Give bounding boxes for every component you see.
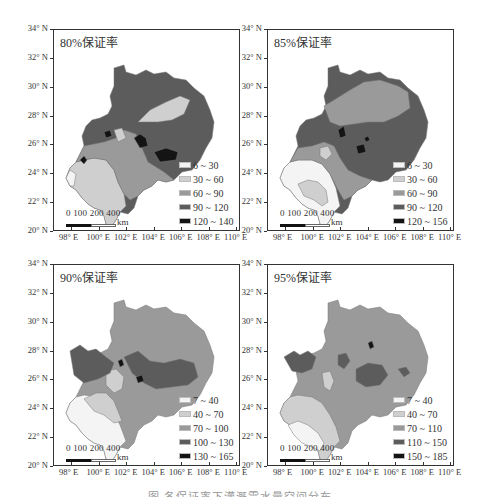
y-tick-label: 20° N <box>20 225 48 235</box>
y-tick-label: 32° N <box>20 52 48 62</box>
x-tick-label: 108° E <box>411 467 434 477</box>
legend-label: 70 ~ 110 <box>407 423 442 434</box>
scale-segment-light <box>91 224 116 227</box>
legend-swatch-icon <box>393 439 405 445</box>
x-tick-label: 108° E <box>197 467 220 477</box>
y-tick-label: 28° N <box>234 345 262 355</box>
x-tick-mark <box>450 227 451 230</box>
legend-item: 90 ~ 120 <box>179 200 233 214</box>
x-tick-label: 104° E <box>142 232 165 242</box>
legend-item: 90 ~ 120 <box>393 200 447 214</box>
y-tick-label: 30° N <box>20 316 48 326</box>
y-tick-label: 30° N <box>20 81 48 91</box>
legend-swatch-icon <box>179 176 191 182</box>
map-legend: 6 ~ 3030 ~ 6060 ~ 9090 ~ 120120 ~ 140 <box>179 158 233 228</box>
x-tick-label: 102° E <box>114 232 137 242</box>
legend-item: 70 ~ 100 <box>179 421 233 435</box>
y-tick-label: 20° N <box>234 460 262 470</box>
y-tick-label: 24° N <box>20 402 48 412</box>
scale-bar: 0 100 200 400km <box>66 443 129 462</box>
legend-label: 7 ~ 40 <box>407 395 432 406</box>
legend-label: 30 ~ 60 <box>407 174 437 185</box>
x-tick-mark <box>99 227 100 230</box>
legend-swatch-icon <box>393 411 405 417</box>
x-tick-mark <box>71 227 72 230</box>
scale-bar: 0 100 200 400km <box>66 208 129 227</box>
y-tick-label: 34° N <box>20 258 48 268</box>
x-tick-mark <box>154 227 155 230</box>
x-tick-label: 104° E <box>142 467 165 477</box>
y-tick-label: 34° N <box>20 23 48 33</box>
scale-bar: 0 100 200 400km <box>280 443 343 462</box>
y-tick-label: 30° N <box>234 81 262 91</box>
y-tick-label: 34° N <box>234 258 262 268</box>
legend-label: 90 ~ 120 <box>407 202 442 213</box>
panel-title: 90%保证率 <box>60 268 118 286</box>
legend-swatch-icon <box>179 162 191 168</box>
scale-segment-dark <box>280 224 305 227</box>
x-tick-label: 102° E <box>328 467 351 477</box>
legend-label: 6 ~ 30 <box>407 160 432 171</box>
legend-item: 7 ~ 40 <box>179 393 233 407</box>
y-tick-label: 26° N <box>234 138 262 148</box>
scale-segment-light <box>305 224 330 227</box>
scale-segment-light <box>305 459 330 462</box>
legend-item: 100 ~ 130 <box>179 435 233 449</box>
panel-title: 95%保证率 <box>274 268 332 286</box>
legend-item: 6 ~ 30 <box>179 158 233 172</box>
y-tick-label: 30° N <box>234 316 262 326</box>
y-tick-label: 28° N <box>234 110 262 120</box>
legend-swatch-icon <box>179 453 191 459</box>
x-tick-mark <box>285 462 286 465</box>
legend-swatch-icon <box>179 190 191 196</box>
x-tick-label: 98° E <box>59 467 78 477</box>
legend-swatch-icon <box>393 204 405 210</box>
y-tick-label: 28° N <box>20 345 48 355</box>
legend-label: 150 ~ 185 <box>407 451 447 462</box>
x-tick-mark <box>313 462 314 465</box>
map-legend: 7 ~ 4040 ~ 7070 ~ 110110 ~ 150150 ~ 185 <box>393 393 447 463</box>
x-tick-label: 98° E <box>273 232 292 242</box>
legend-item: 150 ~ 185 <box>393 449 447 463</box>
x-tick-label: 102° E <box>114 467 137 477</box>
x-tick-label: 106° E <box>169 232 192 242</box>
scale-segment-light <box>91 459 116 462</box>
x-tick-label: 100° E <box>87 232 110 242</box>
legend-item: 120 ~ 156 <box>393 214 447 228</box>
map-legend: 7 ~ 4040 ~ 7070 ~ 100100 ~ 130130 ~ 165 <box>179 393 233 463</box>
legend-item: 60 ~ 90 <box>179 186 233 200</box>
legend-label: 120 ~ 156 <box>407 216 447 227</box>
y-tick-label: 22° N <box>234 196 262 206</box>
legend-swatch-icon <box>179 397 191 403</box>
legend-swatch-icon <box>393 425 405 431</box>
x-tick-mark <box>285 227 286 230</box>
map-frame: 95%保证率7 ~ 4040 ~ 7070 ~ 110110 ~ 150150 … <box>267 264 454 466</box>
map-frame: 90%保证率7 ~ 4040 ~ 7070 ~ 100100 ~ 130130 … <box>53 264 240 466</box>
y-tick-label: 22° N <box>20 196 48 206</box>
y-tick-label: 22° N <box>234 431 262 441</box>
legend-label: 40 ~ 70 <box>407 409 437 420</box>
map-frame: 85%保证率6 ~ 3030 ~ 6060 ~ 9090 ~ 120120 ~ … <box>267 29 454 231</box>
x-tick-label: 102° E <box>328 232 351 242</box>
legend-label: 90 ~ 120 <box>193 202 228 213</box>
y-tick-label: 20° N <box>20 460 48 470</box>
x-tick-label: 106° E <box>169 467 192 477</box>
y-tick-label: 24° N <box>234 167 262 177</box>
x-tick-label: 98° E <box>273 467 292 477</box>
legend-label: 40 ~ 70 <box>193 409 223 420</box>
figure-caption: 图 各保证率下灌溉需水量空间分布 <box>0 487 480 497</box>
legend-swatch-icon <box>393 162 405 168</box>
x-tick-mark <box>154 462 155 465</box>
legend-swatch-icon <box>393 190 405 196</box>
x-tick-mark <box>340 227 341 230</box>
x-tick-label: 108° E <box>197 232 220 242</box>
scale-segment-dark <box>280 459 305 462</box>
x-tick-label: 110° E <box>438 467 461 477</box>
legend-swatch-icon <box>393 218 405 224</box>
legend-swatch-icon <box>179 425 191 431</box>
x-tick-label: 100° E <box>301 467 324 477</box>
scale-unit: km <box>331 218 343 227</box>
map-frame: 80%保证率6 ~ 3030 ~ 6060 ~ 9090 ~ 120120 ~ … <box>53 29 240 231</box>
y-tick-label: 24° N <box>20 167 48 177</box>
legend-label: 30 ~ 60 <box>193 174 223 185</box>
